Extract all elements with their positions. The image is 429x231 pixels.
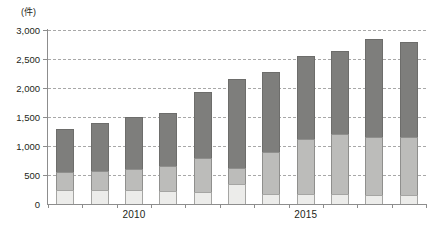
bar-segment-middle-segment bbox=[91, 171, 109, 190]
bar-2011 bbox=[159, 30, 177, 204]
bar-2016 bbox=[331, 30, 349, 204]
y-axis-tick-label: 1,500 bbox=[0, 112, 40, 123]
x-axis-tick-label: 2010 bbox=[122, 209, 145, 220]
bar-segment-lower-segment bbox=[228, 184, 246, 204]
bar-segment-upper-segment bbox=[125, 117, 143, 169]
y-axis-tick-label: 500 bbox=[0, 170, 40, 181]
gridline bbox=[48, 204, 426, 205]
bar-2010 bbox=[125, 30, 143, 204]
bar-segment-upper-segment bbox=[91, 123, 109, 171]
bar-segment-middle-segment bbox=[228, 168, 246, 184]
x-axis-tick-mark bbox=[357, 204, 358, 208]
y-axis-tick-label: 3,000 bbox=[0, 25, 40, 36]
bar-segment-lower-segment bbox=[194, 192, 212, 204]
bar-segment-middle-segment bbox=[331, 134, 349, 194]
stacked-bar-chart: (件) 05001,0001,5002,0002,5003,000 201020… bbox=[0, 0, 429, 231]
x-axis-tick-mark bbox=[220, 204, 221, 208]
x-axis-tick-mark bbox=[323, 204, 324, 208]
bar-segment-upper-segment bbox=[331, 51, 349, 135]
bar-segment-lower-segment bbox=[56, 190, 74, 204]
bar-segment-lower-segment bbox=[365, 195, 383, 204]
y-axis-tick-label: 1,000 bbox=[0, 141, 40, 152]
bar-segment-lower-segment bbox=[91, 190, 109, 204]
x-axis-tick-mark bbox=[392, 204, 393, 208]
bar-2008 bbox=[56, 30, 74, 204]
bar-segment-lower-segment bbox=[331, 194, 349, 204]
bar-segment-middle-segment bbox=[365, 137, 383, 196]
bar-segment-middle-segment bbox=[194, 158, 212, 192]
bar-segment-middle-segment bbox=[125, 169, 143, 190]
bar-segment-upper-segment bbox=[400, 42, 418, 137]
bar-2017 bbox=[365, 30, 383, 204]
bar-segment-lower-segment bbox=[297, 194, 315, 204]
x-axis-tick-mark bbox=[82, 204, 83, 208]
x-axis-tick-mark bbox=[185, 204, 186, 208]
bar-segment-upper-segment bbox=[194, 92, 212, 158]
x-axis-tick-mark bbox=[151, 204, 152, 208]
x-axis-tick-mark bbox=[254, 204, 255, 208]
bar-segment-middle-segment bbox=[297, 139, 315, 194]
plot-area bbox=[48, 30, 426, 204]
bar-segment-upper-segment bbox=[56, 129, 74, 173]
bar-segment-middle-segment bbox=[56, 172, 74, 190]
y-axis-tick-label: 0 bbox=[0, 199, 40, 210]
bar-2018 bbox=[400, 30, 418, 204]
y-axis-tick-label: 2,000 bbox=[0, 83, 40, 94]
x-axis-tick-mark bbox=[48, 204, 49, 208]
bar-2015 bbox=[297, 30, 315, 204]
bar-2012 bbox=[194, 30, 212, 204]
bar-segment-lower-segment bbox=[125, 190, 143, 204]
y-axis-tick-label: 2,500 bbox=[0, 54, 40, 65]
x-axis-tick-mark bbox=[426, 204, 427, 208]
bar-segment-upper-segment bbox=[262, 72, 280, 151]
bar-segment-upper-segment bbox=[159, 113, 177, 166]
bar-2013 bbox=[228, 30, 246, 204]
bar-2014 bbox=[262, 30, 280, 204]
bar-segment-lower-segment bbox=[400, 195, 418, 204]
x-axis-tick-mark bbox=[117, 204, 118, 208]
bar-segment-middle-segment bbox=[159, 166, 177, 191]
bar-2009 bbox=[91, 30, 109, 204]
y-axis-unit-label: (件) bbox=[21, 5, 36, 18]
bar-segment-middle-segment bbox=[262, 152, 280, 194]
x-axis-tick-mark bbox=[289, 204, 290, 208]
bar-segment-lower-segment bbox=[262, 194, 280, 204]
x-axis-tick-label: 2015 bbox=[294, 209, 317, 220]
bar-segment-upper-segment bbox=[297, 56, 315, 140]
bar-segment-upper-segment bbox=[228, 79, 246, 168]
bar-segment-middle-segment bbox=[400, 137, 418, 195]
bar-segment-upper-segment bbox=[365, 39, 383, 136]
bar-segment-lower-segment bbox=[159, 191, 177, 204]
